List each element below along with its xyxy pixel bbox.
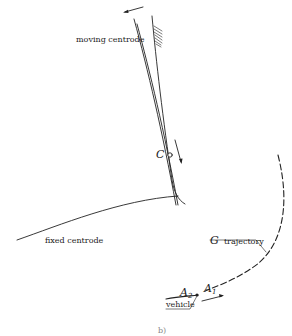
a1-label: A1 (204, 279, 216, 296)
g-trajectory-label: G trajectory (210, 231, 264, 247)
motion-arrow-c-icon (175, 140, 183, 164)
motion-arrow-top-icon (123, 7, 143, 13)
g-symbol: G (210, 234, 219, 247)
hatching (154, 26, 162, 47)
moving-centrode-label: moving centrode (76, 36, 144, 44)
instant-centre-point (168, 153, 172, 157)
centrode-diagram: moving centrode fixed centrode C G traje… (0, 0, 292, 336)
panel-label: b) (158, 327, 166, 335)
vehicle-label: vehicle (166, 301, 195, 309)
instant-centre-label: C (156, 149, 164, 160)
a2-label: A2 (180, 283, 192, 300)
g-trajectory-text: trajectory (224, 237, 264, 246)
fixed-centrode-curve (17, 196, 178, 240)
fixed-centrode-label: fixed centrode (45, 237, 103, 245)
g-trajectory-arc (205, 155, 284, 291)
